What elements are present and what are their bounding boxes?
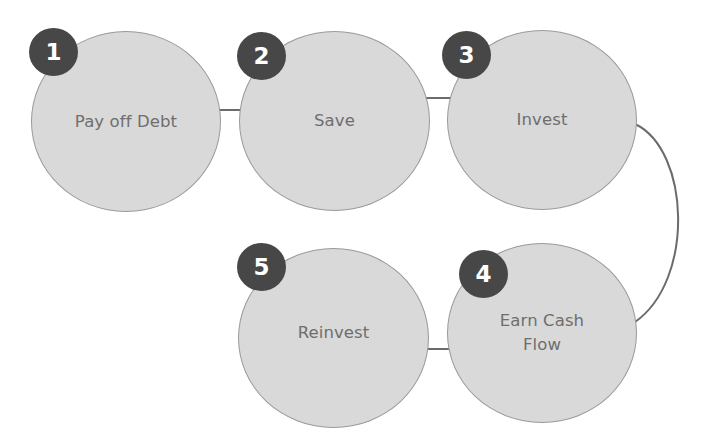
step-3-number: 3 xyxy=(458,42,474,68)
step-1-badge: 1 xyxy=(29,28,78,76)
wealth-cycle-diagram: Pay off Debt 1 Save 2 Invest 3 Earn Cash… xyxy=(0,0,705,448)
step-2-number: 2 xyxy=(253,43,269,69)
step-3-label: Invest xyxy=(517,108,568,132)
step-4-number: 4 xyxy=(475,261,491,287)
step-1-number: 1 xyxy=(45,39,61,65)
step-2-badge: 2 xyxy=(237,32,286,80)
step-3-badge: 3 xyxy=(442,31,491,79)
step-2-label: Save xyxy=(314,109,355,133)
step-1-label: Pay off Debt xyxy=(75,110,177,134)
step-4-badge: 4 xyxy=(459,250,508,298)
step-4-label: Earn Cash Flow xyxy=(482,309,602,357)
step-5-label: Reinvest xyxy=(298,321,370,345)
step-5-number: 5 xyxy=(253,254,269,280)
step-5-badge: 5 xyxy=(237,243,286,291)
connector-2-to-3 xyxy=(426,97,452,99)
